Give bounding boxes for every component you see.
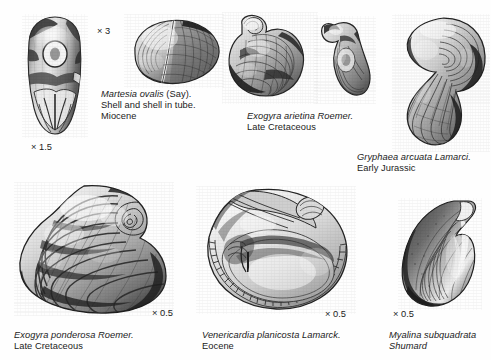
caption-line-3: Miocene [101, 111, 196, 122]
caption-line-2: Early Jurassic [357, 163, 471, 174]
specimen-exogyra-ponderosa [14, 182, 174, 316]
specimen-martesia-shell-in-tube [22, 14, 88, 138]
caption-line-1: Venericardia planicosta Lamarck. [202, 330, 341, 341]
mag-text: × 0.5 [325, 309, 346, 319]
mag-text: × 0.5 [393, 309, 414, 319]
specimen-venericardia-planicosta [196, 186, 356, 314]
caption-myalina-subquadrata: Myalina subquadrata Shumard [389, 330, 476, 352]
magnification-label-venericardia: × 0.5 [325, 309, 346, 319]
fossil-plate: × 1.5 × 3 [0, 0, 491, 360]
caption-line-1: Myalina subquadrata [389, 330, 476, 341]
mag-text: × 1.5 [31, 142, 52, 152]
caption-line-2: Shumard [389, 341, 476, 352]
mag-text: × 3 [97, 26, 110, 36]
caption-line-2: Eocene [202, 341, 341, 352]
scientific-name: Martesia ovalis [101, 89, 164, 99]
caption-line-1: Martesia ovalis (Say). [101, 89, 196, 100]
caption-line-2: Late Cretaceous [247, 122, 353, 133]
caption-gryphaea-arcuata: Gryphaea arcuata Lamarci. Early Jurassic [357, 152, 471, 174]
specimen-exogyra-arietina-view2 [314, 16, 376, 104]
specimen-exogyra-arietina-view1 [222, 12, 318, 104]
magnification-label-myalina: × 0.5 [393, 309, 414, 319]
author-name: (Say). [164, 89, 192, 99]
mag-text: × 0.5 [152, 308, 173, 318]
magnification-label-exogyra-ponderosa: × 0.5 [152, 308, 173, 318]
magnification-label-martesia-ovalis: × 3 [97, 26, 110, 36]
caption-venericardia-planicosta: Venericardia planicosta Lamarck. Eocene [202, 330, 341, 352]
caption-line-2: Late Cretaceous [14, 341, 134, 352]
specimen-myalina-subquadrata [398, 198, 482, 310]
caption-line-1: Exogyra ponderosa Roemer. [14, 330, 134, 341]
specimen-martesia-ovalis [124, 14, 224, 88]
caption-exogyra-ponderosa: Exogyra ponderosa Roemer. Late Cretaceou… [14, 330, 134, 352]
caption-exogyra-arietina: Exogyra arietina Roemer. Late Cretaceous [247, 111, 353, 133]
specimen-gryphaea-arcuata [392, 14, 490, 152]
caption-line-1: Exogyra arietina Roemer. [247, 111, 353, 122]
caption-martesia-ovalis: Martesia ovalis (Say). Shell and shell i… [101, 89, 196, 123]
caption-line-2: Shell and shell in tube. [101, 100, 196, 111]
magnification-label-martesia-tube: × 1.5 [31, 142, 52, 152]
caption-line-1: Gryphaea arcuata Lamarci. [357, 152, 471, 163]
